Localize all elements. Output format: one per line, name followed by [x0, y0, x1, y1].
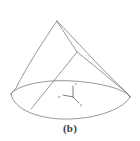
coordinate-axes: z x y [57, 81, 83, 107]
cone-diagram: z x y [0, 0, 140, 141]
right-silhouette-edge [57, 21, 130, 97]
y-axis-label: y [79, 102, 83, 107]
y-axis-line [73, 97, 79, 103]
x-axis-label: x [57, 94, 61, 99]
figure-caption: (b) [0, 122, 140, 134]
crease-edge-right [77, 52, 130, 97]
base-rim-curve [11, 94, 130, 119]
fold-edge-upper [57, 21, 77, 52]
figure-panel: z x y (b) [0, 0, 140, 141]
base-rim-back-curve [11, 81, 130, 97]
z-axis-label: z [74, 81, 77, 86]
x-axis-line [63, 95, 73, 97]
